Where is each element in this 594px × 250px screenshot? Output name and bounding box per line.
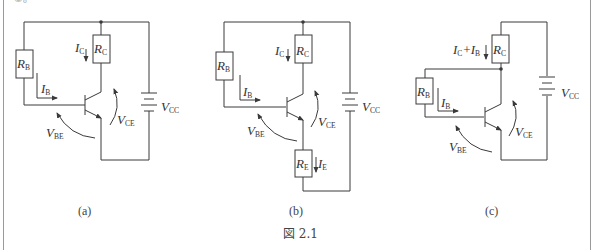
label-ic: IC [274,43,284,59]
circuit-b: RB RC RE IC IB IE VCE VBE VCC (b) [216,20,380,218]
label-vce: VCE [117,112,135,128]
page-fragment-text: ②。 [14,0,33,4]
label-ie: IE [317,156,327,172]
wire-rb-down [24,78,85,105]
wire-re-bottom [303,177,350,191]
label-vce: VCE [515,124,533,140]
label-ib: IB [242,84,252,100]
npn-transistor [85,92,101,118]
circuit-a: RB RC IC IB VCE VBE VCC (a) [16,20,179,218]
wire-rb-top [425,69,501,78]
battery-vcc [539,77,555,95]
npn-transistor [287,94,303,120]
label-vcc: VCC [161,99,179,115]
caption-b: (b) [289,204,303,218]
label-vcc: VCC [362,99,380,115]
junction-dot [99,20,103,24]
junction-dot [301,20,305,24]
label-vce: VCE [318,114,336,130]
caption-a: (a) [78,204,91,218]
label-vbe: VBE [46,125,64,141]
label-ic: IC [74,40,84,56]
label-vcc: VCC [561,85,579,101]
label-ib: IB [440,95,450,111]
junction-dot [499,67,503,71]
figure-caption: 図 2.1 [283,227,318,241]
circuit-c: RB RC IC+IB IB VCE VBE VCC (c) [416,22,579,218]
npn-transistor [485,104,501,130]
wire-rb-down [224,80,286,107]
label-vbe: VBE [449,139,467,155]
label-ib: IB [40,81,50,97]
label-vbe: VBE [247,123,265,139]
battery-vcc [342,93,358,111]
caption-c: (c) [485,204,498,218]
label-ic-plus-ib: IC+IB [452,42,480,58]
battery-vcc [141,93,157,111]
